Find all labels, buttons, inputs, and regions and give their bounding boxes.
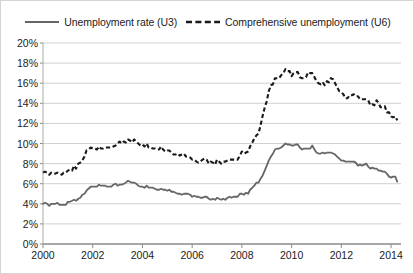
- x-axis-tick-label: 2008: [230, 249, 253, 261]
- gridlines: [43, 43, 401, 244]
- y-axis-tick-label: 12%: [4, 117, 38, 129]
- x-axis-tick-label: 2014: [379, 249, 402, 261]
- x-axis-tick-label: 2002: [81, 249, 104, 261]
- plot-area: 0%2%4%6%8%10%12%14%16%18%20% 20002002200…: [1, 1, 414, 274]
- x-axis-tick-label: 2006: [180, 249, 203, 261]
- plot-svg: [1, 1, 414, 274]
- series-line-u3: [43, 144, 397, 206]
- y-axis-tick-label: 6%: [4, 178, 38, 190]
- chart-container: Unemployment rate (U3) Comprehensive une…: [0, 0, 414, 274]
- y-axis-tick-label: 2%: [4, 218, 38, 230]
- x-axis-tickmarks: [43, 244, 391, 248]
- x-axis-tick-label: 2000: [31, 249, 54, 261]
- y-axis-tick-label: 8%: [4, 158, 38, 170]
- y-axis-tick-label: 18%: [4, 57, 38, 69]
- x-axis-tick-label: 2010: [280, 249, 303, 261]
- y-axis-tick-label: 4%: [4, 198, 38, 210]
- y-axis-tick-label: 10%: [4, 138, 38, 150]
- x-axis-tick-label: 2012: [330, 249, 353, 261]
- y-axis-tick-label: 16%: [4, 77, 38, 89]
- y-axis-tick-label: 14%: [4, 97, 38, 109]
- x-axis-tick-label: 2004: [131, 249, 154, 261]
- y-axis-tick-label: 20%: [4, 37, 38, 49]
- series-line-u6: [43, 69, 397, 175]
